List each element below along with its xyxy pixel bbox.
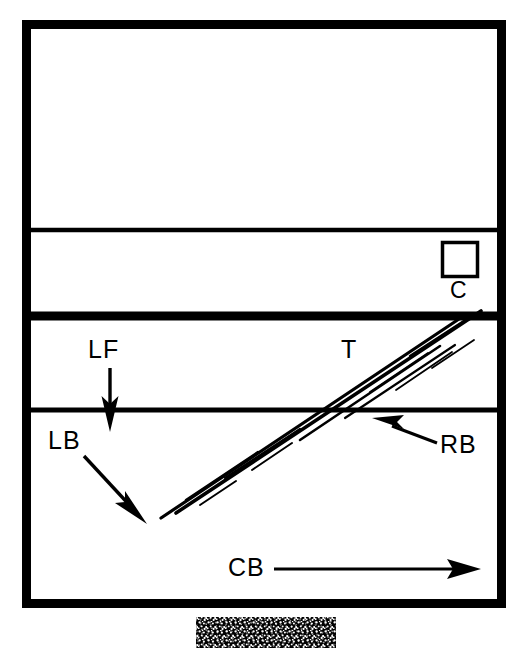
label-lb: LB [48,428,81,453]
lb-arrow [84,456,147,524]
lf-arrow [102,368,119,432]
cb-arrow [274,559,481,579]
divider-lines-group [24,230,504,410]
label-t: T [341,337,357,362]
small-square-C [443,243,478,277]
label-lf: LF [88,337,119,362]
hatched-diagonal-band [161,311,481,518]
label-cb: CB [228,555,265,580]
diagram-canvas [0,0,530,648]
speckled-texture-block [196,617,336,648]
rb-arrow [372,415,437,443]
label-rb: RB [440,432,477,457]
figure-root: LF LB RB T C CB [0,0,530,648]
arrows-group [84,368,481,579]
label-c: C [450,279,468,302]
